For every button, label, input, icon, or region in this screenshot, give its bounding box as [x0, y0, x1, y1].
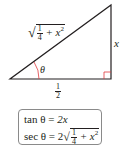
sqrt-expression: √ 14 + x2 — [28, 24, 65, 42]
triangle — [10, 5, 111, 79]
hypotenuse-label: √ 14 + x2 — [28, 24, 65, 42]
tan-lhs: tan θ = — [24, 113, 57, 125]
exponent: 2 — [61, 25, 65, 33]
plus-x: + x — [45, 26, 60, 38]
frac-den: 4 — [71, 138, 77, 146]
fraction: 14 — [71, 129, 77, 146]
opposite-label: x — [114, 38, 119, 49]
sec-formula: sec θ = 2√ 14 + x2 — [24, 128, 99, 146]
sqrt-expression: √ 14 + x2 — [63, 128, 99, 146]
angle-label: θ — [40, 65, 45, 75]
right-triangle-diagram — [0, 0, 123, 100]
plus-x: + x — [80, 130, 95, 142]
right-angle-mark — [104, 72, 111, 79]
exponent: 2 — [95, 129, 99, 137]
fraction: 14 — [37, 25, 43, 42]
sqrt-sign: √ — [28, 25, 36, 40]
fraction: 12 — [55, 83, 61, 100]
angle-arc — [34, 62, 39, 79]
frac-den: 4 — [37, 34, 43, 42]
sec-lhs: sec θ = 2 — [24, 130, 63, 142]
sqrt-sign: √ — [63, 130, 70, 144]
adjacent-label: 12 — [55, 83, 61, 100]
tan-rhs: 2x — [57, 113, 67, 125]
formula-box: tan θ = 2x sec θ = 2√ 14 + x2 — [18, 109, 102, 145]
tan-formula: tan θ = 2x — [24, 114, 68, 125]
frac-den: 2 — [55, 92, 61, 100]
